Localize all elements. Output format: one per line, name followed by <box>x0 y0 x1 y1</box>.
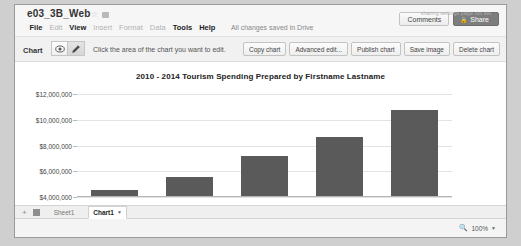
menu-item-data[interactable]: Data <box>146 23 169 32</box>
y-axis-tick-label: $6,000,000 <box>39 168 72 175</box>
delete-chart-button[interactable]: Delete chart <box>453 42 500 56</box>
y-tick-mark <box>73 197 77 198</box>
share-button-label: Share <box>470 16 489 23</box>
sheet-tab-chart1[interactable]: Chart1 ▼ <box>88 206 127 219</box>
y-tick-mark <box>73 120 77 121</box>
lock-icon: 🔒 <box>460 16 467 23</box>
sheet-tab-sheet1[interactable]: Sheet1 <box>50 207 79 218</box>
zoom-level-label: 100% <box>471 225 488 232</box>
chart-bar[interactable] <box>316 137 363 196</box>
screenshot-root: e03_3B_Web ☆ File Edit View Insert Forma… <box>0 0 521 246</box>
zoom-chevron-down-icon[interactable]: ▼ <box>491 225 496 231</box>
menu-item-format[interactable]: Format <box>116 23 147 32</box>
menu-item-insert[interactable]: Insert <box>90 23 116 32</box>
chart-bar[interactable] <box>91 190 138 196</box>
chart-bar[interactable] <box>391 110 438 196</box>
chart-title: 2010 - 2014 Tourism Spending Prepared by… <box>15 72 506 81</box>
folder-icon[interactable] <box>102 12 109 18</box>
chevron-down-icon[interactable]: ▼ <box>117 209 122 215</box>
chart-action-buttons: Copy chart Advanced edit... Publish char… <box>243 42 500 56</box>
chart-mode-group <box>51 41 85 56</box>
y-gridline <box>77 197 452 198</box>
y-tick-mark <box>73 94 77 95</box>
menu-item-file[interactable]: File <box>26 23 46 32</box>
status-bar: 🔍 100% ▼ <box>15 219 506 237</box>
menu-item-help[interactable]: Help <box>196 23 219 32</box>
y-axis-tick-label: $12,000,000 <box>36 91 72 98</box>
zoom-control[interactable]: 🔍 100% ▼ <box>459 224 496 232</box>
menu-item-view[interactable]: View <box>66 23 90 32</box>
chart-edit-hint: Click the area of the chart you want to … <box>93 46 226 53</box>
copy-chart-button[interactable]: Copy chart <box>243 42 286 56</box>
publish-chart-button[interactable]: Publish chart <box>351 42 401 56</box>
advanced-edit-button[interactable]: Advanced edit... <box>289 42 348 56</box>
y-axis-tick-label: $10,000,000 <box>36 116 72 123</box>
save-status: All changes saved in Drive <box>231 24 314 31</box>
y-tick-mark <box>73 146 77 147</box>
chart-plot-area[interactable]: $4,000,000$6,000,000$8,000,000$10,000,00… <box>77 94 452 197</box>
header-actions: sharing settings page not set Comments 🔒… <box>399 12 499 26</box>
title-bar: e03_3B_Web ☆ File Edit View Insert Forma… <box>15 5 506 37</box>
save-image-button[interactable]: Save image <box>404 42 450 56</box>
grid-icon[interactable] <box>33 209 40 216</box>
chart-toolbar: Chart Click the area of the chart you wa… <box>15 37 506 62</box>
menu-item-edit[interactable]: Edit <box>46 23 66 32</box>
y-axis-tick-label: $8,000,000 <box>39 142 72 149</box>
y-axis-tick-label: $4,000,000 <box>39 194 72 201</box>
pencil-icon[interactable] <box>68 41 85 56</box>
sheet-tab-chart1-label: Chart1 <box>93 209 114 216</box>
y-tick-mark <box>73 171 77 172</box>
eye-icon[interactable] <box>51 41 68 56</box>
plus-icon[interactable]: + <box>22 208 27 217</box>
sheet-tab-bar: + Sheet1 Chart1 ▼ <box>15 205 506 219</box>
chart-bar[interactable] <box>241 156 288 196</box>
menu-item-tools[interactable]: Tools <box>169 23 195 32</box>
star-icon[interactable]: ☆ <box>91 10 98 19</box>
magnifier-icon: 🔍 <box>459 224 468 232</box>
menu-bar: File Edit View Insert Format Data Tools … <box>26 21 313 33</box>
document-title[interactable]: e03_3B_Web <box>27 8 91 19</box>
chart-canvas[interactable]: 2010 - 2014 Tourism Spending Prepared by… <box>15 62 506 212</box>
chart-bar[interactable] <box>166 177 213 196</box>
spreadsheet-window: e03_3B_Web ☆ File Edit View Insert Forma… <box>14 4 507 238</box>
chart-toolbar-label: Chart <box>23 46 43 55</box>
y-gridline <box>77 94 452 95</box>
title-icon-group: ☆ <box>91 10 109 19</box>
sharing-hint-text: sharing settings page not set <box>421 10 491 16</box>
